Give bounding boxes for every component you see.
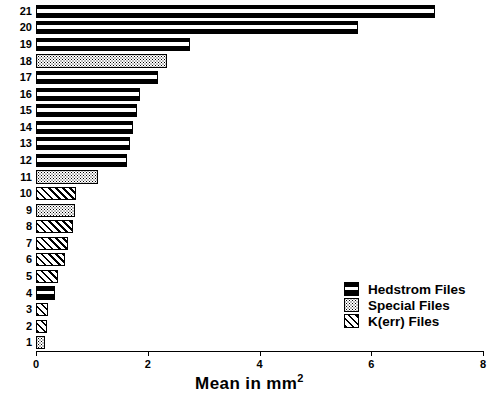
x-tick-4 — [260, 351, 261, 356]
y-tick-label-6: 6 — [2, 254, 32, 265]
legend-label-hedstrom: Hedstrom Files — [368, 282, 466, 297]
bar-row — [36, 38, 483, 51]
bar-row — [36, 121, 483, 134]
bar-row — [36, 104, 483, 117]
x-axis-title-text: Mean in mm — [195, 374, 297, 393]
bar-row — [36, 336, 483, 349]
y-tick-label-9: 9 — [2, 205, 32, 216]
y-tick-label-4: 4 — [2, 288, 32, 299]
y-tick-label-11: 11 — [2, 172, 32, 183]
bar-14[interactable] — [36, 121, 133, 134]
bar-row — [36, 21, 483, 34]
y-tick-label-18: 18 — [2, 56, 32, 67]
bar-row — [36, 253, 483, 266]
bar-3[interactable] — [36, 303, 48, 316]
x-tick-8 — [483, 351, 484, 356]
legend-item-kerr[interactable]: K(err) Files — [344, 313, 494, 329]
bar-7[interactable] — [36, 237, 68, 250]
bar-15[interactable] — [36, 104, 137, 117]
bar-9[interactable] — [36, 204, 75, 217]
y-tick-label-14: 14 — [2, 122, 32, 133]
bar-row — [36, 5, 483, 18]
y-tick-label-19: 19 — [2, 39, 32, 50]
y-axis-tick-labels: 212019181716151413121110987654321 — [0, 3, 32, 351]
bar-row — [36, 71, 483, 84]
bar-5[interactable] — [36, 270, 58, 283]
bar-row — [36, 170, 483, 183]
y-tick-label-16: 16 — [2, 89, 32, 100]
bar-20[interactable] — [36, 21, 358, 34]
bar-4[interactable] — [36, 286, 55, 299]
x-tick-label-8: 8 — [471, 358, 495, 370]
bar-13[interactable] — [36, 137, 130, 150]
x-axis-title: Mean in mm2 — [0, 372, 499, 394]
bar-row — [36, 137, 483, 150]
legend-swatch-special — [344, 298, 359, 312]
bar-12[interactable] — [36, 154, 127, 167]
x-tick-label-2: 2 — [136, 358, 160, 370]
x-axis-title-superscript: 2 — [297, 372, 304, 384]
bar-19[interactable] — [36, 38, 190, 51]
bar-row — [36, 204, 483, 217]
chart-figure: 212019181716151413121110987654321 02468 … — [0, 0, 499, 399]
bar-row — [36, 54, 483, 67]
bar-row — [36, 187, 483, 200]
x-tick-2 — [148, 351, 149, 356]
y-tick-label-1: 1 — [2, 337, 32, 348]
x-tick-label-4: 4 — [248, 358, 272, 370]
legend-item-special[interactable]: Special Files — [344, 297, 494, 313]
y-tick-label-3: 3 — [2, 304, 32, 315]
bar-11[interactable] — [36, 170, 98, 183]
y-tick-label-21: 21 — [2, 6, 32, 17]
y-tick-label-17: 17 — [2, 72, 32, 83]
y-tick-label-12: 12 — [2, 155, 32, 166]
bar-16[interactable] — [36, 88, 140, 101]
y-tick-label-13: 13 — [2, 138, 32, 149]
y-tick-label-7: 7 — [2, 238, 32, 249]
bar-row — [36, 220, 483, 233]
bar-6[interactable] — [36, 253, 65, 266]
bar-17[interactable] — [36, 71, 158, 84]
y-tick-label-5: 5 — [2, 271, 32, 282]
y-tick-label-2: 2 — [2, 321, 32, 332]
bar-row — [36, 88, 483, 101]
y-tick-label-10: 10 — [2, 188, 32, 199]
y-tick-label-20: 20 — [2, 22, 32, 33]
legend-swatch-kerr — [344, 314, 359, 328]
legend: Hedstrom FilesSpecial FilesK(err) Files — [344, 281, 494, 329]
legend-swatch-hedstrom — [344, 282, 359, 296]
bar-row — [36, 237, 483, 250]
x-tick-label-6: 6 — [359, 358, 383, 370]
legend-label-special: Special Files — [368, 298, 450, 313]
x-tick-0 — [36, 351, 37, 356]
bar-1[interactable] — [36, 336, 45, 349]
bar-18[interactable] — [36, 54, 167, 67]
x-tick-6 — [371, 351, 372, 356]
bar-2[interactable] — [36, 320, 47, 333]
x-tick-label-0: 0 — [24, 358, 48, 370]
bar-10[interactable] — [36, 187, 76, 200]
bar-row — [36, 154, 483, 167]
legend-label-kerr: K(err) Files — [368, 314, 439, 329]
y-tick-label-15: 15 — [2, 105, 32, 116]
y-tick-label-8: 8 — [2, 221, 32, 232]
bar-21[interactable] — [36, 5, 435, 18]
bar-8[interactable] — [36, 220, 73, 233]
legend-item-hedstrom[interactable]: Hedstrom Files — [344, 281, 494, 297]
